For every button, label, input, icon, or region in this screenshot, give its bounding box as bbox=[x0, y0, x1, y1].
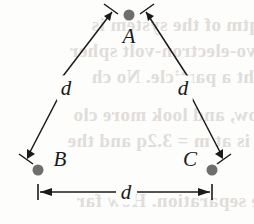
arrowhead-up-left bbox=[104, 12, 112, 21]
arrowhead-up-right bbox=[146, 12, 154, 21]
vertex-label-A: A bbox=[123, 24, 136, 49]
side-label-left: d bbox=[57, 76, 76, 101]
vertex-dot-A bbox=[124, 10, 135, 21]
vertex-label-C: C bbox=[183, 147, 197, 172]
leg-left-upper bbox=[60, 12, 112, 80]
vertex-dot-B bbox=[33, 165, 44, 176]
figure-container: qtm of the system isvo-electron-volt sph… bbox=[0, 0, 254, 224]
vertex-dot-C bbox=[207, 165, 218, 176]
dimension-arrowhead-right bbox=[198, 188, 210, 196]
side-label-bottom: d bbox=[117, 180, 136, 205]
side-label-right: d bbox=[174, 76, 193, 101]
leg-right-upper bbox=[146, 12, 190, 80]
dimension-arrowhead-left bbox=[40, 188, 52, 196]
leg-left-lower bbox=[30, 98, 58, 152]
leg-right-lower bbox=[192, 98, 220, 152]
vertex-label-B: B bbox=[54, 147, 67, 172]
